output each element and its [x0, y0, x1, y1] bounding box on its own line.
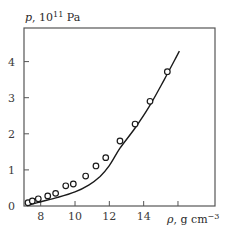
y-tick-label: 2: [8, 128, 15, 141]
data-point-marker: [63, 183, 69, 189]
data-point-marker: [71, 181, 77, 187]
data-point-marker: [83, 173, 89, 179]
data-point-marker: [132, 121, 138, 127]
data-point-marker: [35, 196, 41, 202]
y-tick-label: 0: [8, 200, 15, 213]
y-axis-ticks: 01234: [8, 56, 29, 213]
y-tick-label: 3: [8, 92, 15, 105]
data-point-marker: [147, 99, 153, 105]
theory-line: [27, 51, 179, 206]
x-tick-label: 12: [102, 210, 116, 223]
y-axis-title: p, 1011 Pa: [25, 10, 81, 24]
theory-curve: [27, 51, 179, 206]
data-point-marker: [53, 191, 59, 197]
x-tick-label: 10: [68, 210, 82, 223]
data-point-marker: [165, 69, 171, 75]
data-point-marker: [103, 155, 109, 161]
data-points: [25, 69, 170, 206]
data-point-marker: [93, 163, 99, 169]
plot-frame: [24, 28, 215, 206]
x-tick-label: 14: [137, 210, 151, 223]
x-axis-ticks: 8101214: [37, 201, 178, 223]
x-tick-label: 8: [37, 210, 44, 223]
y-tick-label: 1: [8, 164, 15, 177]
pressure-density-chart: 01234 8101214 p, 1011 Pa ρ, g cm−3: [0, 0, 228, 233]
x-axis-title: ρ, g cm−3: [166, 212, 219, 226]
plot-border: [24, 28, 215, 206]
data-point-marker: [117, 138, 123, 144]
data-point-marker: [45, 193, 51, 199]
y-tick-label: 4: [8, 56, 15, 69]
data-point-marker: [29, 198, 35, 204]
